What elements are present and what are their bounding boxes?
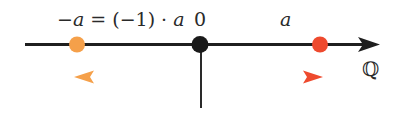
point-neg-a <box>69 37 85 53</box>
label-neg-a-expression: −a = (−1) · a <box>57 8 185 30</box>
label-rationals-set: ℚ <box>362 57 379 81</box>
point-zero <box>192 36 209 53</box>
arrow-to-neg-a <box>74 71 200 84</box>
number-line-diagram: −a = (−1) · a 0 a ℚ <box>0 0 408 121</box>
arrow-to-a <box>201 71 323 84</box>
label-a: a <box>280 8 291 30</box>
point-a <box>312 37 328 53</box>
label-zero: 0 <box>194 8 206 30</box>
